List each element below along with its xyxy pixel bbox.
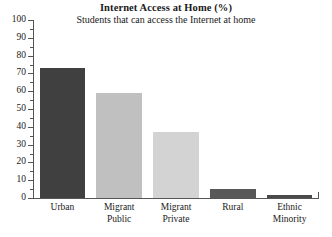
bar <box>153 132 198 198</box>
chart-title: Internet Access at Home (%) <box>0 2 332 14</box>
plot-area <box>34 20 318 198</box>
x-category-label: Urban <box>34 202 91 214</box>
y-tick-label: 30 <box>0 140 26 150</box>
x-category-label-line1: Migrant <box>161 202 192 212</box>
bar <box>210 189 255 198</box>
bar <box>40 68 85 198</box>
bar <box>96 93 141 198</box>
x-category-label-line2: Minority <box>261 214 318 226</box>
x-category-label-line1: Urban <box>51 202 75 212</box>
y-tick-label: 20 <box>0 157 26 167</box>
y-tick-label: 50 <box>0 104 26 114</box>
y-tick-label: 60 <box>0 86 26 96</box>
x-category-label: EthnicMinority <box>261 202 318 225</box>
y-tick-label: 40 <box>0 122 26 132</box>
x-axis-end-cap <box>318 192 319 199</box>
x-category-label-line1: Rural <box>222 202 243 212</box>
bar-chart: Internet Access at Home (%) Students tha… <box>0 0 332 237</box>
x-category-label: MigrantPrivate <box>148 202 205 225</box>
y-tick-label: 10 <box>0 175 26 185</box>
x-category-label-line1: Migrant <box>104 202 135 212</box>
x-category-label: Rural <box>204 202 261 214</box>
y-tick-label: 70 <box>0 68 26 78</box>
x-category-label-line2: Private <box>148 214 205 226</box>
y-tick-major <box>28 198 34 199</box>
y-tick-label: 90 <box>0 33 26 43</box>
y-tick-label: 80 <box>0 51 26 61</box>
bar <box>267 195 312 198</box>
x-category-label-line1: Ethnic <box>277 202 302 212</box>
y-tick-label: 100 <box>0 15 26 25</box>
x-category-label-line2: Public <box>91 214 148 226</box>
y-tick-label: 0 <box>0 193 26 203</box>
x-category-label: MigrantPublic <box>91 202 148 225</box>
x-axis-line <box>33 198 319 199</box>
